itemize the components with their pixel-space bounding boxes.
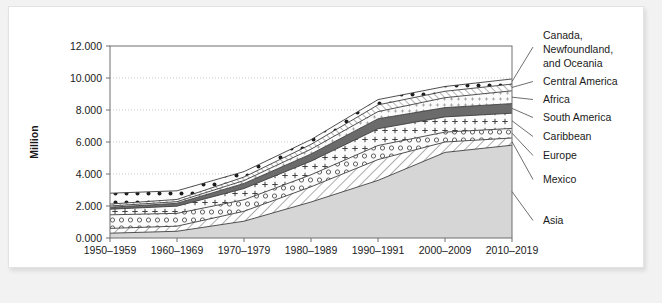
y-axis-title: Million [28,125,40,158]
legend-leader-europe [512,133,533,155]
legend-leader-central-america [512,82,533,88]
legend: Canada,Newfoundland,and OceaniaCentral A… [512,29,618,226]
legend-label-europe: Europe [543,149,577,161]
y-axis: 0.0002.0004.0006.0008.00010.00012.000 [70,40,110,244]
legend-leader-caribbean [512,121,533,137]
legend-label-south-america: South America [543,111,611,123]
y-tick-label: 12.000 [70,40,102,52]
legend-label-canada-newfoundland-oceania: and Oceania [543,57,603,69]
x-axis: 1950–19591960–19691970–19791980–19891990… [84,238,539,256]
x-tick-label: 1970–1979 [218,244,271,256]
legend-leader-south-america [512,108,533,117]
y-tick-label: 10.000 [70,72,102,84]
legend-label-asia: Asia [543,214,564,226]
y-tick-label: 6.000 [76,136,102,148]
legend-leader-asia [512,192,533,221]
y-tick-label: 8.000 [76,104,102,116]
x-tick-label: 1950–1959 [84,244,137,256]
legend-label-canada-newfoundland-oceania: Canada, [543,29,583,41]
x-tick-label: 1990–1991 [352,244,405,256]
y-tick-label: 0.000 [76,232,102,244]
y-tick-label: 2.000 [76,200,102,212]
legend-label-central-america: Central America [543,75,618,87]
chart-svg: 0.0002.0004.0006.0008.00010.00012.000 Mi… [0,0,662,303]
stacked-area-chart: 0.0002.0004.0006.0008.00010.00012.000 Mi… [0,0,662,303]
legend-label-canada-newfoundland-oceania: Newfoundland, [543,43,613,55]
y-tick-label: 4.000 [76,168,102,180]
x-tick-label: 1960–1969 [151,244,204,256]
x-tick-label: 1980–1989 [285,244,338,256]
legend-label-caribbean: Caribbean [543,130,592,142]
x-tick-label: 2000–2009 [419,244,472,256]
x-tick-label: 2010–2019 [486,244,539,256]
legend-label-mexico: Mexico [543,173,576,185]
legend-leader-canada-newfoundland-oceania [512,47,533,82]
legend-label-africa: Africa [543,93,570,105]
legend-leader-africa [512,97,533,99]
legend-leader-mexico [512,142,533,180]
